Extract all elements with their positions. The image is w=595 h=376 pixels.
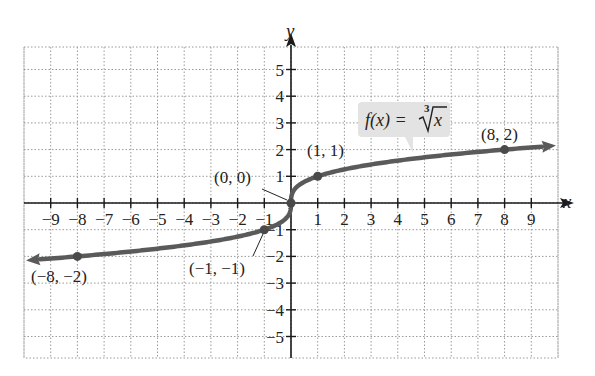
x-tick-label: −7	[95, 210, 114, 229]
root-index: 3	[424, 102, 430, 114]
x-tick-label: −6	[122, 210, 140, 229]
y-tick-label: 2	[276, 141, 285, 160]
cube-root-graph: −9−8−7−6−5−4−3−2−1123456789−5−4−3−2−1123…	[0, 0, 595, 376]
y-tick-label: −3	[266, 274, 284, 293]
x-tick-label: −4	[175, 210, 194, 229]
y-tick-label: 4	[276, 87, 285, 106]
point-marker	[500, 145, 509, 154]
x-tick-label: 1	[313, 210, 322, 229]
x-tick-label: −9	[42, 210, 60, 229]
x-tick-label: −8	[68, 210, 86, 229]
y-tick-label: −2	[266, 247, 284, 266]
x-tick-label: 5	[420, 210, 429, 229]
x-tick-label: −2	[229, 210, 247, 229]
x-axis-label: x	[562, 191, 572, 212]
point-marker	[313, 172, 322, 181]
x-tick-label: 2	[340, 210, 349, 229]
y-tick-label: −4	[266, 301, 285, 320]
x-tick-label: 4	[394, 210, 403, 229]
point-marker	[287, 199, 296, 208]
label-point-origin: (0, 0)	[214, 168, 251, 187]
x-tick-label: −3	[202, 210, 220, 229]
x-tick-label: −5	[148, 210, 166, 229]
function-callout: f(x) = 3 x	[358, 102, 450, 153]
x-tick-label: 7	[474, 210, 483, 229]
axes	[24, 33, 574, 358]
x-tick-label: 6	[447, 210, 456, 229]
point-marker	[73, 252, 82, 261]
function-label: f(x) =	[365, 110, 407, 131]
label-point-1: (1, 1)	[307, 141, 344, 160]
y-tick-label: 5	[276, 61, 285, 80]
y-tick-label: 1	[276, 167, 285, 186]
x-tick-label: 3	[367, 210, 376, 229]
x-tick-label: 8	[500, 210, 509, 229]
leader-line-origin	[262, 189, 287, 200]
radicand: x	[433, 110, 442, 130]
y-axis-label: y	[284, 20, 295, 41]
label-point-8: (8, 2)	[481, 125, 518, 144]
x-tick-label: 9	[527, 210, 536, 229]
label-point-neg1: (−1, −1)	[189, 259, 245, 278]
label-point-neg8: (−8, −2)	[31, 267, 87, 286]
point-marker	[260, 225, 269, 234]
y-tick-label: −5	[266, 328, 284, 347]
y-tick-label: 3	[276, 114, 285, 133]
leader-line-neg1	[253, 234, 263, 256]
